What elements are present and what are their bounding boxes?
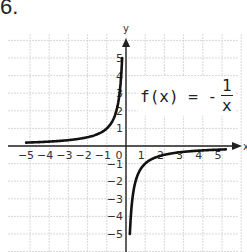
y-axis-label: y [123, 23, 129, 34]
x-axis-arrow-icon [232, 142, 242, 150]
y-tick-label: −2 [107, 175, 123, 188]
function-label-lhs: f(x) = - [140, 87, 217, 106]
axes: xy [8, 23, 247, 252]
y-tick-label: −3 [107, 193, 123, 206]
fraction-denominator: x [222, 96, 232, 114]
curve-right-branch [130, 149, 226, 234]
x-tick-label: −5 [18, 149, 34, 162]
function-graph: xy −5−4−3−2−1012345−5−4−3−2−112345 [0, 0, 247, 252]
curve-left-branch [26, 58, 122, 143]
fraction-numerator: 1 [221, 78, 233, 96]
function-label: f(x) = - 1 x [138, 76, 235, 116]
x-tick-label: −4 [37, 149, 53, 162]
function-fraction: 1 x [221, 78, 233, 114]
x-axis-label: x [243, 141, 247, 152]
x-tick-label: −3 [56, 149, 72, 162]
y-tick-label: −4 [107, 210, 123, 223]
y-tick-label: 1 [116, 122, 123, 135]
x-tick-label: 1 [138, 149, 145, 162]
y-tick-label: −5 [107, 228, 123, 241]
x-tick-label: −2 [75, 149, 91, 162]
y-tick-label: −1 [107, 158, 123, 171]
y-axis-arrow-icon [122, 38, 130, 47]
